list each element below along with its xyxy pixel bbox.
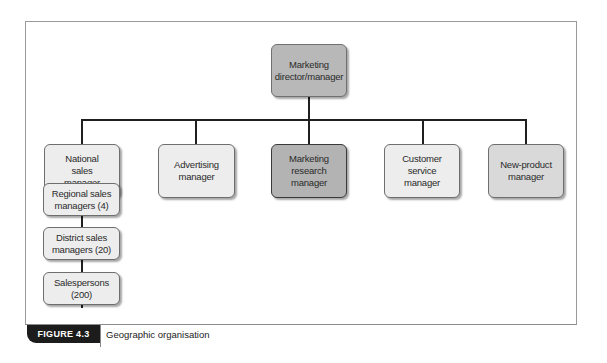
figure-label: FIGURE 4.3 — [27, 325, 100, 343]
connector-research — [308, 119, 310, 144]
node-label-line: Regional sales — [52, 188, 112, 200]
connector-root-down — [308, 97, 310, 121]
node-salespersons: Salespersons (200) — [43, 272, 120, 305]
node-label-line: Salespersons — [54, 277, 109, 289]
node-label-line: Marketing — [289, 153, 329, 165]
connector-national — [81, 119, 83, 144]
node-customer-service-manager: Customer service manager — [384, 144, 460, 198]
node-regional-sales-managers: Regional sales managers (4) — [43, 183, 120, 216]
node-label-line: managers (4) — [52, 200, 112, 212]
node-label-line: manager — [500, 171, 552, 183]
node-district-sales-managers: District sales managers (20) — [43, 227, 120, 260]
node-label-line: research — [289, 165, 329, 177]
node-label-line: manager — [174, 171, 219, 183]
node-label-line: service — [402, 165, 442, 177]
node-label-line: Customer — [402, 153, 442, 165]
connector-horizontal — [81, 119, 527, 121]
node-marketing-director: Marketing director/manager — [271, 44, 347, 97]
node-label-line: District sales — [52, 232, 111, 244]
figure-title: Geographic organisation — [106, 329, 210, 340]
node-label-line: managers (20) — [52, 244, 111, 256]
node-label-line: (200) — [54, 289, 109, 301]
node-marketing-research-manager: Marketing research manager — [271, 144, 347, 198]
connector-advertising — [195, 119, 197, 144]
node-label-line: manager — [289, 177, 329, 189]
node-label-line: director/manager — [275, 71, 344, 83]
node-label-line: Marketing — [275, 59, 344, 71]
node-label-line: National — [64, 153, 100, 165]
connector-customer — [422, 119, 424, 144]
node-advertising-manager: Advertising manager — [158, 144, 235, 198]
connector-new-product — [525, 119, 527, 144]
node-new-product-manager: New-product manager — [488, 144, 564, 198]
caption-divider — [100, 325, 101, 347]
node-label-line: manager — [402, 177, 442, 189]
node-label-line: New-product — [500, 159, 552, 171]
node-label-line: sales — [64, 165, 100, 177]
node-label-line: Advertising — [174, 159, 219, 171]
